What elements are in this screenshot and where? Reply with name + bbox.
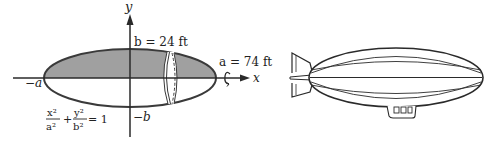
blimp-illustration (290, 48, 483, 118)
equation-term1-numerator: x² (47, 107, 57, 118)
gondola-window-2 (401, 107, 406, 113)
equation-term2-numerator: y² (73, 107, 84, 118)
x-axis-label: x (253, 71, 260, 85)
y-axis-arrow-icon (127, 14, 134, 25)
a-value-label: a = 74 ft (219, 55, 272, 69)
neg-a-label: −a (25, 76, 42, 90)
equation-equals: = 1 (88, 113, 108, 126)
figure: y x b = 24 ft a = 74 ft −a −b x² a² + y²… (0, 0, 492, 141)
blimp-tail-fin-lower (292, 83, 312, 97)
ellipse-equation: x² a² + y² b² = 1 (46, 107, 108, 132)
b-value-label: b = 24 ft (134, 35, 188, 49)
neg-b-label: −b (133, 110, 151, 124)
x-axis-arrow-icon (240, 75, 250, 82)
equation-term1-denominator: a² (46, 121, 56, 132)
equation-term2-denominator: b² (73, 121, 83, 132)
gondola-window-1 (394, 107, 399, 113)
gondola-window-3 (408, 107, 412, 113)
blimp-tail-fin-upper (292, 53, 312, 73)
equation-plus: + (63, 113, 72, 126)
ellipse-diagram: y x b = 24 ft a = 74 ft −a −b x² a² + y²… (13, 0, 272, 137)
y-axis-label: y (124, 0, 133, 14)
